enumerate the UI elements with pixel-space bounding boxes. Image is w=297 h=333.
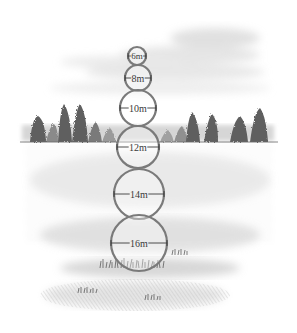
sky-clouds (50, 28, 270, 94)
circle-8m: 8m (125, 65, 151, 91)
diameter-label: 6m (131, 51, 143, 61)
circle-12m: 12m (117, 126, 159, 168)
diameter-label: 14m (130, 189, 148, 200)
diameter-label: 10m (129, 103, 147, 114)
diameter-label: 12m (129, 142, 147, 153)
meadow-scene: 6m8m10m12m14m16m (0, 0, 297, 333)
circle-14m: 14m (114, 169, 164, 219)
circle-16m: 16m (111, 215, 167, 271)
diameter-label: 8m (132, 73, 145, 84)
circle-6m: 6m (128, 47, 146, 65)
diameter-label: 16m (130, 238, 148, 249)
circle-10m: 10m (120, 90, 156, 126)
